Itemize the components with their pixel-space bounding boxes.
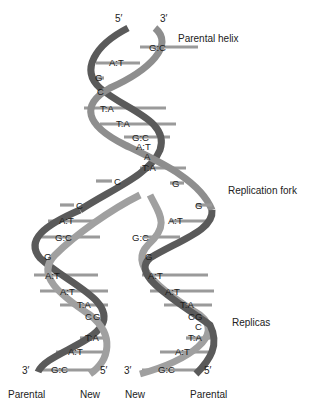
svg-text:C: C <box>97 86 104 97</box>
svg-text:G: G <box>145 251 152 262</box>
label-right-parental: Parental <box>190 389 227 400</box>
svg-text:A:T: A:T <box>59 215 74 226</box>
svg-text:5′: 5′ <box>100 365 108 376</box>
svg-text:G:C: G:C <box>149 42 166 53</box>
svg-text:G:C: G:C <box>51 364 68 375</box>
svg-text:5′: 5′ <box>204 365 212 376</box>
svg-text:T:A: T:A <box>188 332 202 343</box>
label-left-new: New <box>80 389 101 400</box>
svg-text:A:T: A:T <box>148 270 163 281</box>
svg-text:A:T: A:T <box>175 346 190 357</box>
svg-text:T:A: T:A <box>142 162 156 173</box>
svg-text:A:T: A:T <box>165 286 180 297</box>
label-replicas: Replicas <box>232 317 270 328</box>
svg-text:T:A: T:A <box>180 299 194 310</box>
label-left-parental: Parental <box>8 389 45 400</box>
callout-labels: Parental helix Replication fork Replicas <box>178 33 298 328</box>
svg-text:A:T: A:T <box>68 346 83 357</box>
svg-text:C: C <box>114 176 121 187</box>
svg-text:T:A: T:A <box>100 103 114 114</box>
label-replication-fork: Replication fork <box>228 185 298 196</box>
svg-text:A:T: A:T <box>168 215 183 226</box>
svg-text:C: C <box>76 200 83 211</box>
svg-text:C: C <box>188 311 195 322</box>
svg-text:G:C: G:C <box>158 364 175 375</box>
svg-text:A:T: A:T <box>60 286 75 297</box>
svg-text:G:C: G:C <box>55 232 72 243</box>
label-right-new: New <box>125 389 146 400</box>
svg-text:5′: 5′ <box>115 13 123 24</box>
svg-text:G: G <box>93 311 100 322</box>
svg-text:A:T: A:T <box>109 57 124 68</box>
svg-text:T:A: T:A <box>116 118 130 129</box>
svg-text:3′: 3′ <box>124 365 132 376</box>
svg-text:G: G <box>44 251 51 262</box>
svg-text:C: C <box>85 311 92 322</box>
svg-text:3′: 3′ <box>22 365 30 376</box>
svg-text:C: C <box>195 321 202 332</box>
svg-text:G: G <box>95 72 102 83</box>
label-parental-helix: Parental helix <box>178 33 239 44</box>
svg-text:T:A: T:A <box>85 332 99 343</box>
svg-text:A:T: A:T <box>45 270 60 281</box>
dna-replication-diagram: G:C A:T G C T:A T:A G:C A:T A T:A C C G … <box>0 0 312 404</box>
svg-text:G: G <box>195 200 202 211</box>
svg-text:G:C: G:C <box>132 232 149 243</box>
svg-text:A: A <box>144 151 151 162</box>
svg-text:T:A: T:A <box>77 299 91 310</box>
parental-helix <box>80 28 212 210</box>
strand-identity-labels: Parental New New Parental <box>8 389 227 400</box>
svg-text:3′: 3′ <box>160 13 168 24</box>
svg-text:G: G <box>172 178 179 189</box>
